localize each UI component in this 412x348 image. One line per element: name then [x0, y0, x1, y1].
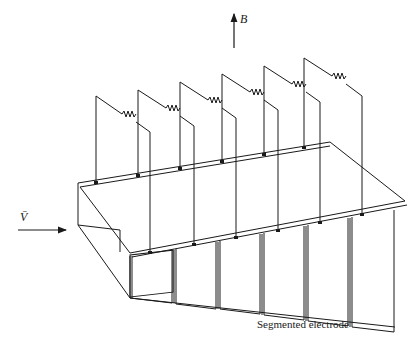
segmented-electrodes	[130, 250, 173, 297]
channel-body	[78, 142, 407, 327]
load-circuits	[96, 58, 362, 252]
caption-segmented-electrode: Segmented electrode	[257, 318, 349, 330]
velocity-label: V̄	[20, 210, 27, 225]
mhd-channel-diagram	[0, 0, 412, 348]
magnetic-field-label: B	[240, 12, 247, 27]
